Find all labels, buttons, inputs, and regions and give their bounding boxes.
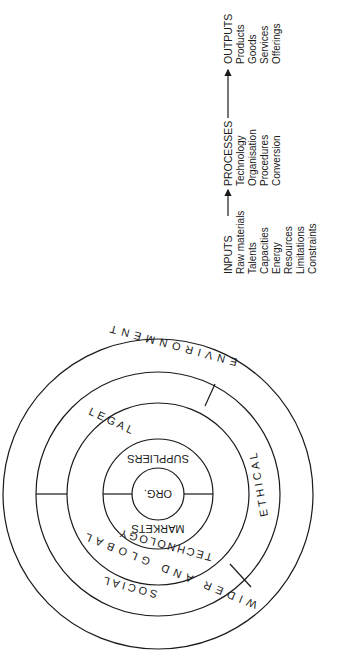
divider-line [205,384,215,406]
output-item: Services [259,26,270,64]
concentric-circles: ORG. MARKETS SUPPLIERS TECHNOLOGY SOCIAL… [3,322,313,649]
output-item: Offerings [271,24,282,64]
input-item: Limitations [295,226,306,274]
process-item: Procedures [259,135,270,186]
input-item: Constraints [307,223,318,274]
input-item: Energy [271,242,282,274]
outputs-column: OUTPUTS Products Goods Services Offering… [222,14,282,64]
org-label: ORG. [144,488,172,500]
process-item: Organisation [247,129,258,186]
input-item: Talents [247,242,258,274]
organisation-environment-diagram: INPUTS Raw materials Talents Capacities … [0,0,352,664]
suppliers-label: SUPPLIERS [127,453,189,465]
ipo-block: INPUTS Raw materials Talents Capacities … [222,14,318,274]
input-item: Capacities [259,227,270,274]
processes-column: PROCESSES Technology Organisation Proced… [222,121,282,186]
legal-label: LEGAL [87,405,138,437]
social-label: SOCIAL [99,574,158,601]
output-item: Goods [247,35,258,64]
process-item: Conversion [271,135,282,186]
processes-heading: PROCESSES [222,121,234,186]
input-item: Raw materials [235,211,246,274]
outputs-heading: OUTPUTS [222,14,234,64]
input-item: Resources [283,226,294,274]
ethical-label: ETHICAL [246,449,270,518]
output-item: Products [235,25,246,64]
inputs-heading: INPUTS [222,235,234,274]
inputs-column: INPUTS Raw materials Talents Capacities … [222,211,318,274]
environment-label: ENVIRONMENT [104,322,239,369]
process-item: Technology [235,135,246,186]
